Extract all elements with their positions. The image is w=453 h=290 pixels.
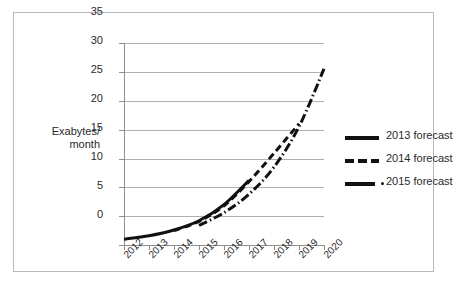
- x-tick-label-2020: 2020: [322, 237, 345, 260]
- legend-item-2015[interactable]: 2015 forecast: [345, 173, 450, 196]
- series-line-2015: [199, 69, 324, 225]
- y-tick-label-20: 20: [75, 93, 103, 104]
- legend-label-2015: 2015 forecast: [386, 175, 453, 187]
- chart-legend: 2013 forecast 2014 forecast 2015 forecas…: [345, 127, 450, 196]
- y-tick-label-0: 0: [75, 209, 103, 220]
- chart-frame: Exabytes/ month 35 30 25 20 15 10 5 0: [13, 12, 434, 272]
- legend-swatch-solid-icon: [345, 136, 379, 140]
- plot-area: 2012 2013 2014 2015 2016 2017 2018 2019 …: [124, 43, 324, 245]
- legend-label-2013: 2013 forecast: [386, 129, 453, 141]
- y-tick-label-15: 15: [75, 122, 103, 133]
- legend-swatch-dashdot-icon: [345, 182, 375, 186]
- legend-swatch-dashed-icon: [345, 159, 379, 163]
- series-line-2014: [174, 124, 299, 231]
- legend-dot-icon: [381, 182, 384, 185]
- y-tick-label-10: 10: [75, 151, 103, 162]
- y-tick-label-30: 30: [75, 35, 103, 46]
- legend-item-2014[interactable]: 2014 forecast: [345, 150, 450, 173]
- legend-label-2014: 2014 forecast: [386, 152, 453, 164]
- legend-item-2013[interactable]: 2013 forecast: [345, 127, 450, 150]
- y-tick-label-5: 5: [75, 180, 103, 191]
- y-tick-label-25: 25: [75, 64, 103, 75]
- series-lines: [124, 43, 324, 253]
- y-tick-label-35: 35: [75, 6, 103, 17]
